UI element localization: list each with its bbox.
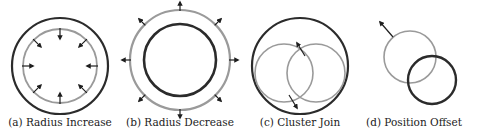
panel-radius-decrease bbox=[122, 2, 238, 118]
arrow-icon bbox=[380, 22, 393, 37]
panel-radius-increase bbox=[12, 18, 108, 114]
panel-position-offset bbox=[380, 22, 456, 104]
arrow-icon bbox=[139, 95, 145, 101]
panel-cluster-join bbox=[252, 18, 348, 114]
caption-cluster-join: (c) Cluster Join bbox=[260, 116, 340, 128]
caption-position-offset: (d) Position Offset bbox=[366, 116, 462, 128]
cluster-circle-gray bbox=[287, 44, 345, 102]
arrow-icon bbox=[215, 19, 221, 25]
cluster-circle-gray bbox=[255, 44, 313, 102]
arrow-icon bbox=[33, 39, 41, 47]
arrow-icon bbox=[33, 85, 41, 93]
cluster-circle-dark bbox=[144, 24, 216, 96]
arrow-icon bbox=[215, 95, 221, 101]
arrow-icon bbox=[79, 85, 87, 93]
cluster-circle-dark bbox=[408, 56, 456, 104]
caption-radius-increase: (a) Radius Increase bbox=[8, 116, 112, 128]
cluster-circle-dark bbox=[252, 18, 348, 114]
arrow-icon bbox=[79, 39, 87, 47]
arrow-icon bbox=[139, 19, 145, 25]
caption-radius-decrease: (b) Radius Decrease bbox=[126, 116, 234, 128]
